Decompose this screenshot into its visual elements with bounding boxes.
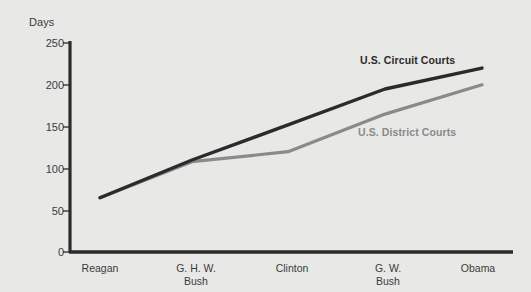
x-tick-gw-bush: G. W. Bush (375, 262, 401, 288)
x-tick-ghw-bush: G. H. W. Bush (176, 262, 216, 288)
series-line-district-courts (100, 85, 482, 198)
x-tick-obama: Obama (461, 262, 495, 275)
series-label-district-courts: U.S. District Courts (358, 126, 456, 138)
plot-area (0, 0, 531, 292)
series-label-circuit-courts: U.S. Circuit Courts (360, 54, 455, 66)
x-tick-reagan: Reagan (82, 262, 119, 275)
x-tick-clinton: Clinton (276, 262, 309, 275)
line-chart: Days 250 200 150 100 50 0 U.S. Circuit C… (0, 0, 531, 292)
